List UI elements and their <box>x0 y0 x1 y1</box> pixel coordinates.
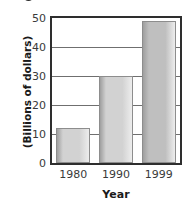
x-axis-tick-labels: 198019901999 <box>50 168 182 184</box>
y-tick-label: 30 <box>20 71 46 82</box>
x-tick-label: 1990 <box>95 168 138 181</box>
y-tick-label: 40 <box>20 42 46 53</box>
y-tick-label: 10 <box>20 129 46 140</box>
bar <box>56 128 90 163</box>
bar <box>142 21 176 163</box>
y-tick-label: 0 <box>20 158 46 169</box>
bar-chart-figure: (Billions of dollars) 01020304050 198019… <box>0 0 191 214</box>
plot-inner <box>52 18 180 163</box>
bar <box>99 76 133 163</box>
x-tick-label: 1980 <box>52 168 95 181</box>
y-axis-tick-labels: 01020304050 <box>18 0 46 214</box>
y-tick-label: 20 <box>20 100 46 111</box>
x-tick-label: 1999 <box>137 168 180 181</box>
x-axis-label: Year <box>50 188 182 201</box>
y-tick-label: 50 <box>20 13 46 24</box>
plot-area <box>50 16 182 165</box>
